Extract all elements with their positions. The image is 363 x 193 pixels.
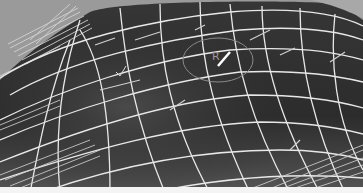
render-viewport: R [0,0,363,193]
gizmo-label: R [212,50,220,63]
bottom-strip [0,187,363,193]
wireframe-surface: R [0,0,363,193]
